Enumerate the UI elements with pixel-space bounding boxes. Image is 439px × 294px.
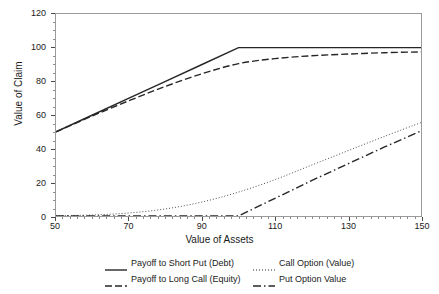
x-axis: Value of Assets 507090110130150 [0,217,439,257]
legend-line-swatch-icon [253,276,275,284]
x-minor-tick-mark [341,217,342,219]
x-minor-tick-mark [158,217,159,219]
x-tick-mark [349,217,350,221]
x-minor-tick-mark [172,217,173,219]
x-minor-tick-mark [385,217,386,219]
x-minor-tick-mark [261,217,262,219]
y-axis-title: Value of Claim [13,34,24,154]
x-minor-tick-mark [150,217,151,219]
x-minor-tick-mark [246,217,247,219]
x-minor-tick-mark [334,217,335,219]
x-minor-tick-mark [77,217,78,219]
legend-item-label: Payoff to Long Call (Equity) [131,275,240,284]
x-minor-tick-mark [194,217,195,219]
plot-series-svg [56,14,421,216]
x-minor-tick-mark [121,217,122,219]
series-line [56,131,421,216]
x-minor-tick-mark [297,217,298,219]
x-minor-tick-mark [209,217,210,219]
x-minor-tick-mark [231,217,232,219]
y-tick-label: 120 [31,9,46,18]
x-minor-tick-mark [371,217,372,219]
legend-item-label: Call Option (Value) [279,259,354,268]
legend-item[interactable]: Payoff to Long Call (Equity) [105,272,240,287]
x-minor-tick-mark [378,217,379,219]
x-tick-mark [275,217,276,221]
x-tick-label: 130 [341,222,356,231]
y-tick-label: 20 [36,179,46,188]
x-tick-label: 70 [123,222,133,231]
legend-item[interactable]: Payoff to Short Put (Debt) [105,256,234,271]
x-minor-tick-mark [143,217,144,219]
x-minor-tick-mark [70,217,71,219]
legend-item-label: Payoff to Short Put (Debt) [131,259,234,268]
x-minor-tick-mark [224,217,225,219]
series-line [56,123,421,216]
chart-figure: Value of Claim 020406080100120 Value of … [0,0,439,294]
x-minor-tick-mark [187,217,188,219]
x-tick-mark [422,217,423,221]
x-minor-tick-mark [253,217,254,219]
x-minor-tick-mark [407,217,408,219]
y-tick-label: 80 [36,77,46,86]
series-line [56,48,421,132]
x-minor-tick-mark [290,217,291,219]
x-axis-title: Value of Assets [0,234,439,245]
y-tick-label: 60 [36,111,46,120]
x-minor-tick-mark [268,217,269,219]
y-tick-label: 40 [36,145,46,154]
x-minor-tick-mark [106,217,107,219]
x-minor-tick-mark [319,217,320,219]
x-minor-tick-mark [327,217,328,219]
x-minor-tick-mark [400,217,401,219]
x-minor-tick-mark [136,217,137,219]
x-tick-label: 50 [50,222,60,231]
x-minor-tick-mark [356,217,357,219]
legend-item-label: Put Option Value [279,275,346,284]
x-tick-label: 90 [197,222,207,231]
x-minor-tick-mark [393,217,394,219]
series-line [56,52,421,132]
x-tick-mark [202,217,203,221]
x-tick-label: 150 [414,222,429,231]
x-minor-tick-mark [99,217,100,219]
y-tick-label: 100 [31,43,46,52]
x-tick-label: 110 [268,222,282,231]
x-minor-tick-mark [283,217,284,219]
chart-legend: Payoff to Short Put (Debt)Call Option (V… [105,256,365,290]
x-minor-tick-mark [180,217,181,219]
x-minor-tick-mark [305,217,306,219]
plot-area [55,13,422,217]
x-minor-tick-mark [216,217,217,219]
x-minor-tick-mark [84,217,85,219]
x-minor-tick-mark [114,217,115,219]
legend-item[interactable]: Put Option Value [253,272,346,287]
x-tick-mark [128,217,129,221]
x-minor-tick-mark [312,217,313,219]
x-minor-tick-mark [363,217,364,219]
x-minor-tick-mark [415,217,416,219]
legend-line-swatch-icon [253,260,275,268]
x-minor-tick-mark [92,217,93,219]
legend-line-swatch-icon [105,276,127,284]
x-minor-tick-mark [62,217,63,219]
x-tick-mark [55,217,56,221]
y-axis: Value of Claim 020406080100120 [0,0,55,230]
legend-item[interactable]: Call Option (Value) [253,256,354,271]
legend-line-swatch-icon [105,260,127,268]
x-minor-tick-mark [239,217,240,219]
x-minor-tick-mark [165,217,166,219]
